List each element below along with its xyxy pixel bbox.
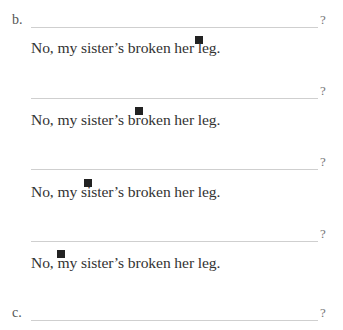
question-mark-c: ?: [320, 305, 326, 321]
answer-blank-line-1[interactable]: [31, 27, 318, 28]
answer-sentence-2: No, my sister’s broken her leg.: [31, 111, 220, 129]
question-mark-2: ?: [320, 83, 326, 99]
exercise-c-label: c.: [12, 305, 22, 321]
answer-blank-line-4[interactable]: [31, 241, 318, 242]
answer-sentence-3: No, my sister’s broken her leg.: [31, 183, 220, 201]
answer-blank-line-3[interactable]: [31, 169, 318, 170]
question-mark-4: ?: [320, 226, 326, 242]
question-mark-3: ?: [320, 154, 326, 170]
answer-sentence-1: No, my sister’s broken her leg.: [31, 39, 220, 57]
question-mark-1: ?: [320, 12, 326, 28]
exercise-b-label: b.: [12, 12, 23, 28]
answer-sentence-4: No, my sister’s broken her leg.: [31, 254, 220, 272]
answer-blank-line-2[interactable]: [31, 98, 318, 99]
answer-blank-line-c[interactable]: [31, 320, 318, 321]
